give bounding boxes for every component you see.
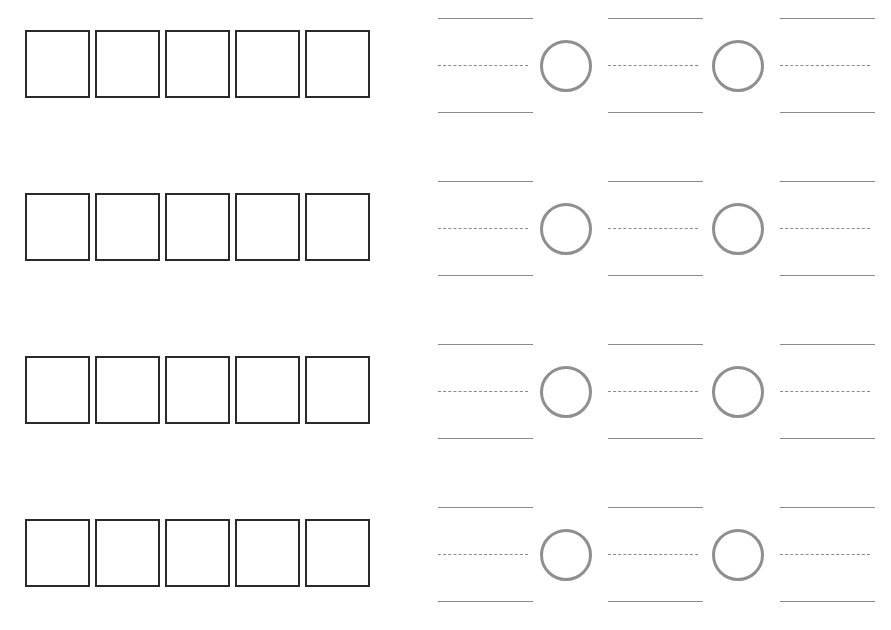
numerator-blank[interactable]	[780, 507, 875, 508]
strip-box[interactable]	[25, 193, 90, 261]
numerator-blank[interactable]	[438, 18, 533, 19]
problem-row	[0, 18, 891, 138]
denominator-blank[interactable]	[438, 275, 533, 276]
strip-box[interactable]	[95, 30, 160, 98]
strip-box[interactable]	[305, 519, 370, 587]
comparison-circle[interactable]	[540, 40, 592, 92]
comparison-circle[interactable]	[712, 40, 764, 92]
fraction-bar	[438, 65, 528, 66]
denominator-blank[interactable]	[780, 275, 875, 276]
box-strip	[25, 519, 370, 587]
fraction-bar	[780, 228, 870, 229]
strip-box[interactable]	[25, 30, 90, 98]
numerator-blank[interactable]	[608, 18, 703, 19]
comparison-circle[interactable]	[712, 203, 764, 255]
numerator-blank[interactable]	[608, 181, 703, 182]
box-strip	[25, 193, 370, 261]
numerator-blank[interactable]	[608, 344, 703, 345]
strip-box[interactable]	[305, 356, 370, 424]
fraction-bar	[608, 228, 698, 229]
numerator-blank[interactable]	[438, 344, 533, 345]
fraction-bar	[608, 391, 698, 392]
denominator-blank[interactable]	[438, 438, 533, 439]
strip-box[interactable]	[165, 193, 230, 261]
box-strip	[25, 30, 370, 98]
comparison-circle[interactable]	[540, 529, 592, 581]
problem-row	[0, 181, 891, 301]
fraction-bar	[608, 554, 698, 555]
strip-box[interactable]	[305, 30, 370, 98]
fraction-bar	[780, 391, 870, 392]
denominator-blank[interactable]	[780, 112, 875, 113]
strip-box[interactable]	[25, 519, 90, 587]
strip-box[interactable]	[165, 356, 230, 424]
fraction-bar	[438, 554, 528, 555]
strip-box[interactable]	[235, 30, 300, 98]
fraction-bar	[608, 65, 698, 66]
strip-box[interactable]	[95, 193, 160, 261]
problem-row	[0, 344, 891, 464]
fraction-bar	[780, 65, 870, 66]
denominator-blank[interactable]	[438, 112, 533, 113]
numerator-blank[interactable]	[438, 181, 533, 182]
fraction-bar	[438, 228, 528, 229]
strip-box[interactable]	[165, 519, 230, 587]
numerator-blank[interactable]	[608, 507, 703, 508]
comparison-circle[interactable]	[540, 366, 592, 418]
numerator-blank[interactable]	[780, 344, 875, 345]
denominator-blank[interactable]	[438, 601, 533, 602]
comparison-circle[interactable]	[712, 529, 764, 581]
numerator-blank[interactable]	[780, 18, 875, 19]
strip-box[interactable]	[95, 519, 160, 587]
numerator-blank[interactable]	[438, 507, 533, 508]
denominator-blank[interactable]	[608, 112, 703, 113]
fraction-bar	[438, 391, 528, 392]
box-strip	[25, 356, 370, 424]
comparison-circle[interactable]	[540, 203, 592, 255]
strip-box[interactable]	[305, 193, 370, 261]
comparison-circle[interactable]	[712, 366, 764, 418]
strip-box[interactable]	[235, 519, 300, 587]
denominator-blank[interactable]	[608, 601, 703, 602]
denominator-blank[interactable]	[780, 601, 875, 602]
denominator-blank[interactable]	[608, 438, 703, 439]
numerator-blank[interactable]	[780, 181, 875, 182]
strip-box[interactable]	[235, 356, 300, 424]
strip-box[interactable]	[95, 356, 160, 424]
strip-box[interactable]	[165, 30, 230, 98]
strip-box[interactable]	[25, 356, 90, 424]
denominator-blank[interactable]	[780, 438, 875, 439]
denominator-blank[interactable]	[608, 275, 703, 276]
fraction-bar	[780, 554, 870, 555]
problem-row	[0, 507, 891, 627]
strip-box[interactable]	[235, 193, 300, 261]
